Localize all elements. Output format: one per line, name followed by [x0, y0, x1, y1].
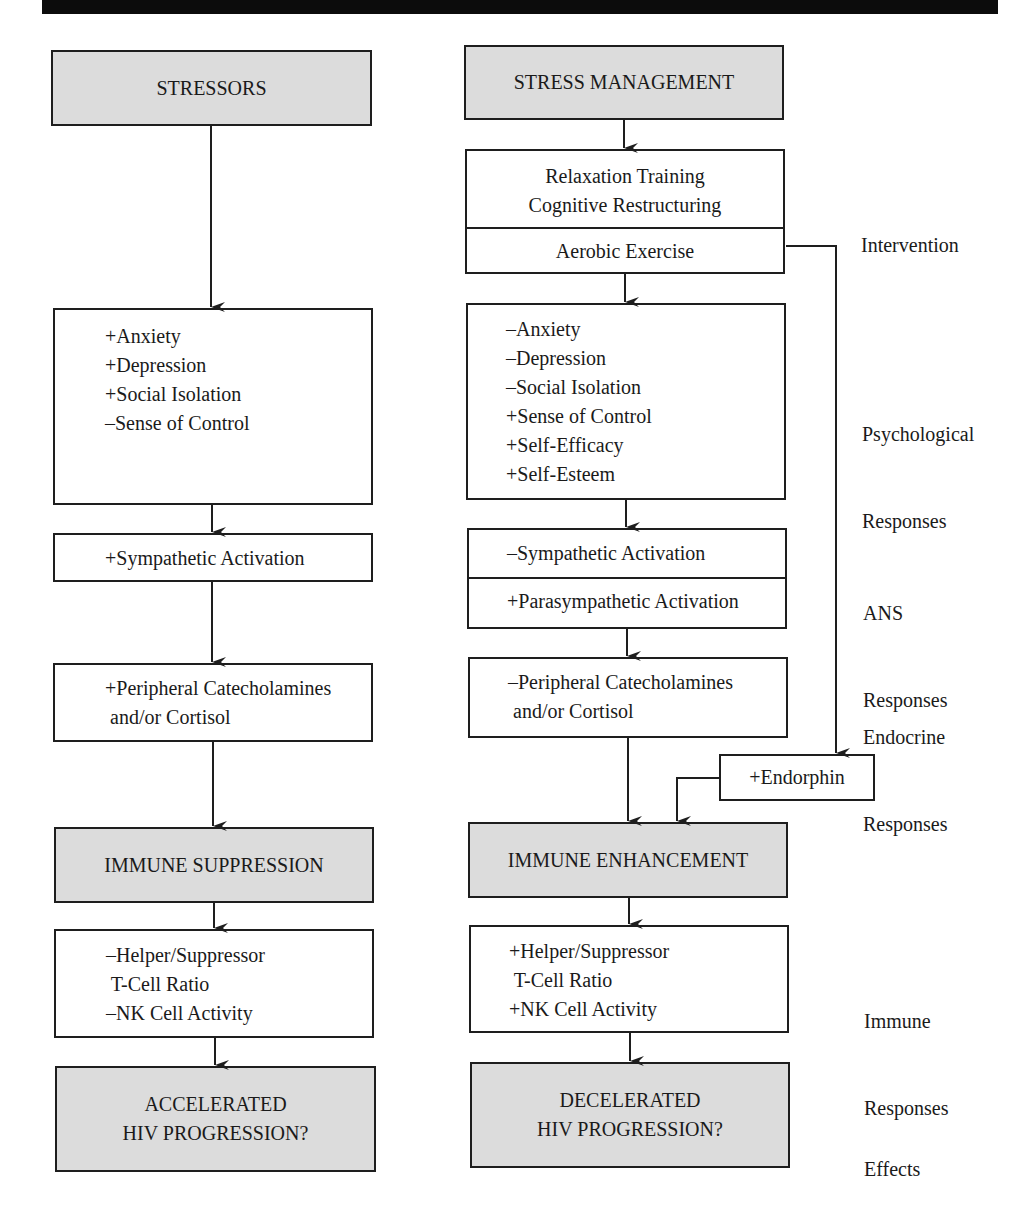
- right-psych-item: –Depression: [506, 344, 784, 373]
- stress-management-label: STRESS MANAGEMENT: [514, 68, 735, 97]
- left-ans-box: +Sympathetic Activation: [53, 533, 373, 582]
- sympathetic-row: –Sympathetic Activation: [469, 539, 785, 568]
- left-ans-item: +Sympathetic Activation: [105, 544, 371, 573]
- stage-label-text: Responses: [863, 810, 947, 839]
- right-ans-box: –Sympathetic Activation +Parasympathetic…: [467, 528, 787, 629]
- parasympathetic-row: +Parasympathetic Activation: [469, 587, 785, 616]
- immune-suppression-box: IMMUNE SUPPRESSION: [54, 827, 374, 903]
- endorphin-box: +Endorphin: [719, 754, 875, 801]
- arrow-aerobic-to-endorphin: [786, 246, 836, 753]
- endorphin-label: +Endorphin: [749, 763, 845, 792]
- right-psych-item: +Sense of Control: [506, 402, 784, 431]
- stage-label-text: Endocrine: [863, 723, 947, 752]
- right-endocrine-box: –Peripheral Catecholamines and/or Cortis…: [468, 657, 788, 738]
- intervention-item: Relaxation Training: [545, 162, 704, 191]
- immune-suppression-label: IMMUNE SUPPRESSION: [104, 851, 324, 880]
- left-endocrine-line: and/or Cortisol: [105, 703, 371, 732]
- stage-label-text: ANS: [863, 599, 947, 628]
- accelerated-line: HIV PROGRESSION?: [123, 1119, 309, 1148]
- right-immune-line: +Helper/Suppressor: [509, 937, 787, 966]
- stressors-label: STRESSORS: [156, 74, 266, 103]
- left-immune-line: –Helper/Suppressor: [106, 941, 372, 970]
- aerobic-label: Aerobic Exercise: [556, 237, 694, 266]
- ans-divider: [469, 577, 785, 579]
- intervention-item: Cognitive Restructuring: [529, 191, 722, 220]
- left-psych-item: +Anxiety: [105, 322, 371, 351]
- stage-label-psychological: Psychological Responses: [862, 362, 974, 565]
- aerobic-row: Aerobic Exercise: [467, 231, 783, 271]
- immune-enhancement-box: IMMUNE ENHANCEMENT: [468, 822, 788, 898]
- right-psych-item: –Social Isolation: [506, 373, 784, 402]
- left-psych-item: +Depression: [105, 351, 371, 380]
- stage-label-effects: Effects: [864, 1097, 920, 1213]
- stage-label-text: Effects: [864, 1155, 920, 1184]
- right-endocrine-line: and/or Cortisol: [508, 697, 786, 726]
- stage-label-text: Intervention: [861, 231, 959, 260]
- right-immune-box: +Helper/Suppressor T-Cell Ratio +NK Cell…: [469, 925, 789, 1033]
- parasympathetic-label: +Parasympathetic Activation: [507, 590, 739, 612]
- right-immune-line: T-Cell Ratio: [509, 966, 787, 995]
- intervention-row: Relaxation Training Cognitive Restructur…: [467, 159, 783, 223]
- stress-management-box: STRESS MANAGEMENT: [464, 45, 784, 120]
- left-immune-line: T-Cell Ratio: [106, 970, 372, 999]
- right-psych-item: +Self-Efficacy: [506, 431, 784, 460]
- left-immune-line: –NK Cell Activity: [106, 999, 372, 1028]
- stressors-box: STRESSORS: [51, 50, 372, 126]
- stage-label-text: Psychological: [862, 420, 974, 449]
- right-psych-item: +Self-Esteem: [506, 460, 784, 489]
- left-psychological-box: +Anxiety +Depression +Social Isolation –…: [53, 308, 373, 505]
- decelerated-line: HIV PROGRESSION?: [537, 1115, 723, 1144]
- left-endocrine-box: +Peripheral Catecholamines and/or Cortis…: [53, 663, 373, 742]
- left-psych-item: +Social Isolation: [105, 380, 371, 409]
- arrow-endorphin-to-enhancement: [677, 778, 719, 821]
- left-endocrine-line: +Peripheral Catecholamines: [105, 674, 371, 703]
- stage-label-text: Immune: [864, 1007, 948, 1036]
- decelerated-box: DECELERATED HIV PROGRESSION?: [470, 1062, 790, 1168]
- accelerated-box: ACCELERATED HIV PROGRESSION?: [55, 1066, 376, 1172]
- stage-label-text: Responses: [862, 507, 974, 536]
- decelerated-line: DECELERATED: [559, 1086, 700, 1115]
- stage-label-intervention: Intervention: [861, 173, 959, 289]
- right-immune-line: +NK Cell Activity: [509, 995, 787, 1024]
- left-psych-item: –Sense of Control: [105, 409, 371, 438]
- sympathetic-label: –Sympathetic Activation: [507, 542, 705, 564]
- top-black-bar: [42, 0, 998, 14]
- accelerated-line: ACCELERATED: [144, 1090, 286, 1119]
- intervention-box: Relaxation Training Cognitive Restructur…: [465, 149, 785, 274]
- intervention-divider: [467, 227, 783, 229]
- left-immune-box: –Helper/Suppressor T-Cell Ratio –NK Cell…: [54, 929, 374, 1038]
- stage-label-endocrine: Endocrine Responses: [863, 665, 947, 868]
- right-endocrine-line: –Peripheral Catecholamines: [508, 668, 786, 697]
- right-psych-item: –Anxiety: [506, 315, 784, 344]
- immune-enhancement-label: IMMUNE ENHANCEMENT: [508, 846, 749, 875]
- right-psychological-box: –Anxiety –Depression –Social Isolation +…: [466, 303, 786, 500]
